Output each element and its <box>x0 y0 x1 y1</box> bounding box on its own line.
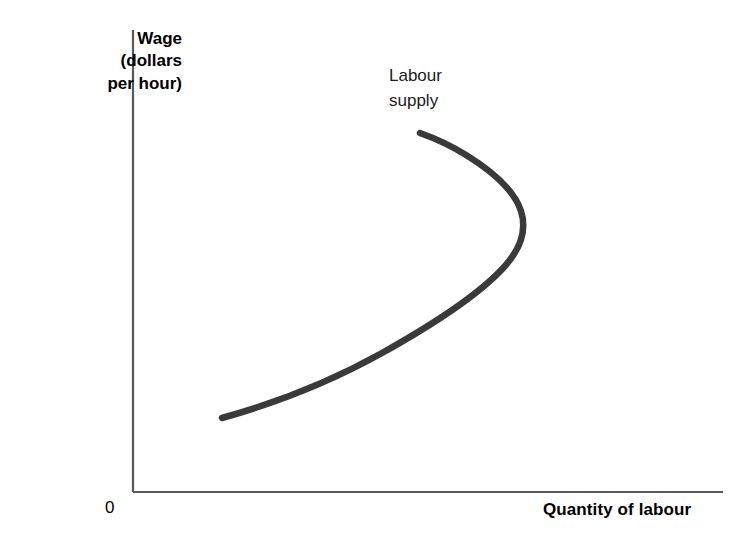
annotation-line-1: Labour <box>389 66 442 85</box>
y-axis-label: Wage(dollarsper hour) <box>107 28 182 95</box>
y-axis-label-line-3: per hour) <box>107 74 182 93</box>
annotation-line-2: supply <box>389 91 438 110</box>
y-axis-label-line-2: (dollars <box>121 51 182 70</box>
y-axis-label-line-1: Wage <box>137 29 182 48</box>
labour-supply-curve <box>222 133 523 418</box>
chart-figure: Wage(dollarsper hour) Quantity of labour… <box>0 0 745 537</box>
origin-label: 0 <box>105 498 114 518</box>
x-axis-label: Quantity of labour <box>543 500 691 520</box>
labour-supply-annotation: Laboursupply <box>389 64 442 113</box>
